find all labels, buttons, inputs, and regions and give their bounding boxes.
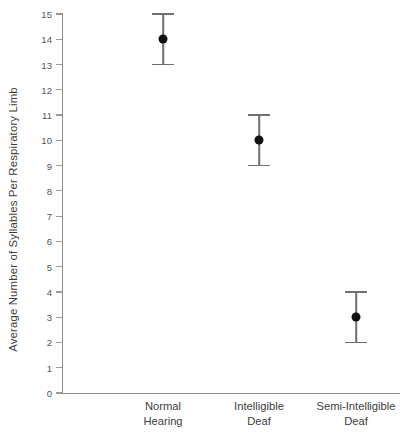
y-axis-tick-label: 3 xyxy=(0,312,52,323)
y-axis-tick-label: 11 xyxy=(0,110,52,121)
y-axis-tick-label: 10 xyxy=(0,135,52,146)
y-axis-tick-label: 4 xyxy=(0,286,52,297)
data-point-marker xyxy=(255,136,264,145)
y-axis-tick-label: 15 xyxy=(0,9,52,20)
error-bar-cap-upper xyxy=(345,291,367,293)
y-axis-tick-label: 8 xyxy=(0,185,52,196)
y-axis-tick-label: 5 xyxy=(0,261,52,272)
y-axis-tick xyxy=(56,165,62,166)
x-axis-category-label: Semi-IntelligibleDeaf xyxy=(286,399,413,428)
y-axis-tick xyxy=(56,216,62,217)
y-axis-tick xyxy=(56,317,62,318)
y-axis-tick-label: 1 xyxy=(0,362,52,373)
y-axis-tick xyxy=(56,392,62,393)
y-axis-tick xyxy=(56,13,62,14)
error-bar-cap-upper xyxy=(248,114,270,116)
data-point-marker xyxy=(352,313,361,322)
y-axis-line xyxy=(62,13,63,394)
y-axis-tick xyxy=(56,291,62,292)
y-axis-tick xyxy=(56,114,62,115)
y-axis-tick xyxy=(56,190,62,191)
y-axis-tick-label: 7 xyxy=(0,211,52,222)
y-axis-tick-label: 6 xyxy=(0,236,52,247)
y-axis-tick-label: 12 xyxy=(0,84,52,95)
y-axis-tick-label: 2 xyxy=(0,337,52,348)
error-bar-cap-upper xyxy=(152,13,174,15)
error-bar-cap-lower xyxy=(248,165,270,167)
error-bar-cap-lower xyxy=(345,342,367,344)
y-axis-tick xyxy=(56,367,62,368)
y-axis-tick-label: 9 xyxy=(0,160,52,171)
y-axis-tick xyxy=(56,140,62,141)
data-point-marker xyxy=(159,35,168,44)
x-axis-line xyxy=(62,393,400,394)
chart-container: Average Number of Syllables Per Respirat… xyxy=(0,0,413,439)
y-axis-tick xyxy=(56,39,62,40)
category-label-line: Deaf xyxy=(286,414,413,429)
y-axis-tick xyxy=(56,241,62,242)
y-axis-tick xyxy=(56,64,62,65)
y-axis-tick xyxy=(56,342,62,343)
y-axis-tick-label: 13 xyxy=(0,59,52,70)
y-axis-tick-label: 14 xyxy=(0,34,52,45)
category-label-line: Semi-Intelligible xyxy=(286,399,413,414)
y-axis-tick xyxy=(56,266,62,267)
y-axis-tick xyxy=(56,89,62,90)
error-bar-cap-lower xyxy=(152,64,174,66)
y-axis-tick-label: 0 xyxy=(0,388,52,399)
